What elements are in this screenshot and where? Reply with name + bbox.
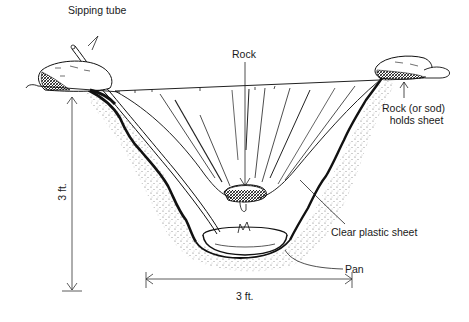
- width-dimension: [146, 272, 352, 288]
- label-rock-or-sod-line1: Rock (or sod): [382, 102, 445, 114]
- label-width: 3 ft.: [236, 290, 254, 302]
- right-rock: [375, 56, 450, 80]
- label-clear-plastic-sheet: Clear plastic sheet: [331, 226, 417, 238]
- label-rock-or-sod-line2: holds sheet: [382, 114, 445, 126]
- center-rock: [224, 185, 266, 212]
- label-rock: Rock: [232, 48, 256, 60]
- label-pan: Pan: [345, 263, 364, 275]
- solar-still-diagram: Sipping tube Rock Rock (or sod) holds sh…: [0, 0, 469, 322]
- label-depth: 3 ft.: [56, 180, 68, 204]
- label-rock-or-sod: Rock (or sod) holds sheet: [382, 102, 445, 126]
- pan: [203, 222, 287, 255]
- left-rock: [26, 61, 120, 104]
- label-sipping-tube: Sipping tube: [68, 4, 126, 16]
